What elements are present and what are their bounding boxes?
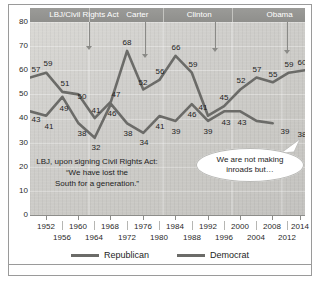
- y-tick-70: 70: [2, 42, 28, 50]
- annotation-lbj-line1: LBJ, upon signing Civil Rights Act:: [24, 156, 170, 167]
- era-arrow-clinton: [212, 22, 219, 52]
- era-arrow-obama: [284, 22, 291, 54]
- data-label-dem-1956: 41: [41, 123, 57, 131]
- data-label-dem-2000: 43: [218, 119, 234, 127]
- annotation-callout-bubble: We are not making inroads but…: [196, 148, 304, 182]
- data-label-dem-1972: 46: [104, 110, 120, 118]
- x-label-1968: 1968: [96, 222, 124, 231]
- x-label-1980: 1980: [145, 233, 173, 242]
- chart-legend: Republican Democrat: [8, 248, 312, 262]
- era-label-carter: Carter: [126, 8, 148, 22]
- era-label-lbj: LBJ/Civil Rights Act: [49, 8, 118, 22]
- legend-swatch-democrat: [177, 254, 205, 257]
- legend-label-republican: Republican: [104, 250, 149, 260]
- x-label-2004: 2004: [242, 233, 270, 242]
- era-arrow-carter: [142, 22, 149, 58]
- data-label-rep-2008: 57: [249, 66, 265, 74]
- data-label-dem-1988: 39: [168, 128, 184, 136]
- data-label-dem-1968: 32: [88, 144, 104, 152]
- era-arrow-lbj: [86, 22, 93, 50]
- era-header-band: LBJ/Civil Rights Act Carter Clinton Obam…: [30, 8, 305, 22]
- data-label-rep-2014: 60: [294, 59, 305, 67]
- data-label-rep-1964: 50: [74, 93, 90, 101]
- data-label-rep-2000: 45: [216, 94, 232, 102]
- callout-line1: We are not making: [217, 155, 284, 165]
- x-axis-line: [30, 215, 305, 216]
- legend-item-democrat[interactable]: Democrat: [177, 250, 249, 260]
- data-label-rep-1984: 56: [152, 68, 168, 76]
- y-tick-30: 30: [2, 139, 28, 147]
- annotation-lbj-line2: “We have lost the: [24, 167, 170, 178]
- data-label-dem-2008: 39: [277, 128, 293, 136]
- data-label-rep-1960: 51: [57, 80, 73, 88]
- x-label-2012: 2012: [273, 233, 301, 242]
- x-label-1960: 1960: [64, 222, 92, 231]
- era-label-obama: Obama: [267, 8, 293, 22]
- data-label-rep-1988: 66: [168, 44, 184, 52]
- data-label-dem-1984: 41: [152, 123, 168, 131]
- data-label-dem-1992: 46: [184, 111, 200, 119]
- data-label-rep-1956: 59: [40, 60, 56, 68]
- annotation-lbj-quote: LBJ, upon signing Civil Rights Act: “We …: [24, 156, 170, 189]
- data-label-dem-2004: 43: [234, 119, 250, 127]
- x-label-2014: 2014: [286, 222, 314, 231]
- legend-swatch-republican: [71, 254, 99, 257]
- data-label-rep-1980: 52: [135, 79, 151, 87]
- data-label-dem-1964: 38: [74, 130, 90, 138]
- y-tick-40: 40: [2, 114, 28, 122]
- data-label-dem-1996: 39: [200, 128, 216, 136]
- x-label-1972: 1972: [113, 233, 141, 242]
- series-line-democrat: [30, 97, 273, 138]
- x-label-1952: 1952: [32, 222, 60, 231]
- data-label-dem-1980: 34: [136, 139, 152, 147]
- data-label-dem-1960: 49: [56, 105, 72, 113]
- data-label-rep-2012: 55: [265, 71, 281, 79]
- x-label-1988: 1988: [178, 233, 206, 242]
- legend-label-democrat: Democrat: [210, 250, 249, 260]
- x-label-1976: 1976: [129, 222, 157, 231]
- x-label-1984: 1984: [161, 222, 189, 231]
- data-label-rep-1972: 47: [108, 91, 124, 99]
- data-label-rep-1968: 41: [88, 107, 104, 115]
- x-label-2008: 2008: [258, 222, 286, 231]
- y-tick-50: 50: [2, 90, 28, 98]
- x-label-1964: 1964: [80, 233, 108, 242]
- y-tick-0: 0: [2, 211, 28, 219]
- x-label-1956: 1956: [48, 233, 76, 242]
- data-label-dem-1976: 38: [120, 130, 136, 138]
- y-tick-60: 60: [2, 66, 28, 74]
- data-label-rep-1976: 68: [119, 39, 135, 47]
- legend-divider: [8, 264, 312, 265]
- x-label-1992: 1992: [194, 222, 222, 231]
- era-label-clinton: Clinton: [187, 8, 212, 22]
- legend-item-republican[interactable]: Republican: [71, 250, 149, 260]
- data-label-rep-2004: 52: [233, 77, 249, 85]
- annotation-lbj-line3: South for a generation.”: [24, 178, 170, 189]
- x-label-2000: 2000: [226, 222, 254, 231]
- x-label-1996: 1996: [210, 233, 238, 242]
- data-label-rep-1992: 59: [185, 61, 201, 69]
- y-tick-80: 80: [2, 18, 28, 26]
- callout-line2: inroads but…: [217, 165, 284, 175]
- chart-container: LBJ/Civil Rights Act Carter Clinton Obam…: [0, 0, 320, 283]
